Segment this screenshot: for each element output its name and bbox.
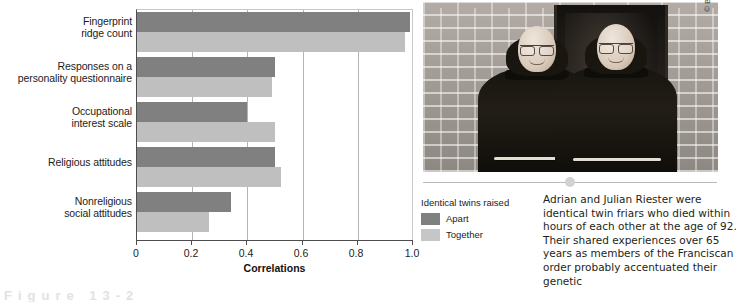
x-tick-label-0.8: 0.8 — [336, 247, 376, 259]
friar-right-glasses — [599, 43, 633, 53]
bar-apart-3 — [137, 147, 275, 167]
bar-together-4 — [137, 212, 209, 232]
chart-legend: Identical twins raised Apart Together — [421, 197, 531, 243]
category-label-personality: Responses on a personality questionnaire — [0, 61, 132, 84]
x-tick-label-0.2: 0.2 — [171, 247, 211, 259]
legend-item-apart: Apart — [421, 211, 531, 226]
friar-right-head — [597, 24, 635, 70]
x-tick-label-0.4: 0.4 — [226, 247, 266, 259]
bar-together-3 — [137, 167, 281, 187]
x-axis-line — [136, 240, 413, 241]
x-tick-0.8 — [357, 240, 358, 245]
friar-right-mouth — [608, 57, 624, 63]
x-axis-title: Correlations — [136, 262, 413, 274]
x-tick-0.2 — [191, 240, 192, 245]
x-tick-0 — [136, 240, 137, 245]
x-tick-label-1.0: 1.0 — [392, 247, 432, 259]
category-label-fingerprint: Fingerprint ridge count — [0, 16, 132, 39]
category-axis-labels: Fingerprint ridge count Responses on a p… — [0, 8, 132, 240]
legend-swatch-apart — [421, 213, 440, 225]
x-tick-1.0 — [412, 240, 413, 245]
legend-label-together: Together — [446, 229, 483, 240]
section-divider — [423, 181, 717, 183]
friar-right — [555, 20, 677, 172]
x-tick-0.4 — [246, 240, 247, 245]
friar-right-habit — [555, 66, 677, 172]
x-tick-0.6 — [302, 240, 303, 245]
photo-credit: © Beth Eberth, St. Bonaventure Universit… — [703, 0, 713, 12]
figure-page: Fingerprint ridge count Responses on a p… — [0, 0, 741, 304]
bar-together-0 — [137, 32, 405, 52]
friar-left-mouth — [529, 59, 545, 65]
bar-apart-0 — [137, 12, 410, 32]
twins-photograph — [423, 2, 718, 172]
figure-caption-text: Adrian and Julian Riester were identical… — [543, 193, 739, 288]
friar-left-glasses — [520, 45, 554, 55]
legend-swatch-together — [421, 229, 440, 241]
x-tick-label-0.6: 0.6 — [281, 247, 321, 259]
divider-dot-icon — [565, 177, 575, 187]
bar-apart-2 — [137, 102, 247, 122]
bar-chart: Fingerprint ridge count Responses on a p… — [0, 0, 420, 304]
x-tick-label-0: 0 — [116, 247, 156, 259]
legend-label-apart: Apart — [446, 213, 469, 224]
bar-together-1 — [137, 77, 272, 97]
figure-footer-cutoff: Figure 13-2 — [4, 288, 139, 302]
friar-left-head — [518, 26, 556, 72]
category-label-religious: Religious attitudes — [0, 157, 132, 169]
photo-image — [423, 2, 718, 172]
friar-right-cord — [573, 158, 661, 161]
category-label-nonreligious: Nonreligious social attitudes — [0, 196, 132, 219]
category-label-occupational: Occupational interest scale — [0, 106, 132, 129]
plot-area — [136, 9, 413, 240]
bar-apart-4 — [137, 192, 231, 212]
legend-title: Identical twins raised — [421, 197, 531, 208]
bar-apart-1 — [137, 57, 275, 77]
bar-together-2 — [137, 122, 275, 142]
legend-item-together: Together — [421, 227, 531, 242]
